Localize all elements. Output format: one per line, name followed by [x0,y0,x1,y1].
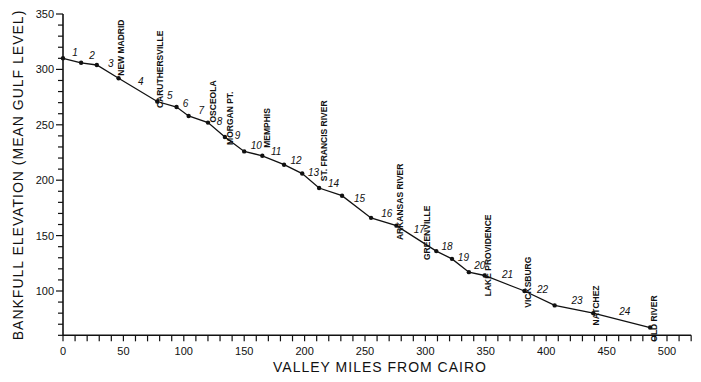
data-point [300,171,304,175]
data-point [434,249,438,253]
y-tick-label: 150 [36,230,54,242]
place-label: OSCEOLA [208,80,218,122]
segment-label: 13 [308,167,320,178]
data-point [186,114,190,118]
place-label: VICKSBURG [523,256,533,307]
segment-label: 21 [501,269,513,280]
place-label: LAKE PROVIDENCE [483,214,493,296]
x-tick-label: 300 [416,345,434,357]
x-tick-label: 250 [356,345,374,357]
data-point [242,149,246,153]
y-axis-title: BANKFULL ELEVATION (MEAN GULF LEVEL) [10,10,26,341]
segment-label: 14 [328,178,340,189]
segment-label: 12 [291,155,303,166]
data-point [260,154,264,158]
x-tick-label: 100 [175,345,193,357]
segment-label: 22 [536,284,549,295]
x-tick-label: 0 [60,345,66,357]
segment-label: 5 [167,90,173,101]
x-tick-label: 350 [477,345,495,357]
place-label: MEMPHIS [262,108,272,148]
segment-label: 16 [381,208,393,219]
segment-label: 7 [199,105,205,116]
data-point [61,56,65,60]
place-label: MORGAN PT. [225,92,235,145]
place-label: NATCHEZ [591,285,601,325]
segment-label: 3 [108,58,114,69]
segment-label: 10 [251,140,263,151]
y-tick-label: 350 [36,8,54,20]
data-point [369,216,373,220]
data-point [467,270,471,274]
segment-label: 6 [183,98,189,109]
segment-label: 24 [618,306,631,317]
data-point [174,105,178,109]
x-tick-label: 400 [537,345,555,357]
y-tick-label: 300 [36,63,54,75]
place-label: NEW MADRID [116,20,126,76]
segment-label: 18 [442,241,454,252]
segment-label: 15 [354,193,366,204]
chart: 1001502002503003500501001502002503003504… [0,0,701,382]
data-point [317,186,321,190]
x-tick-label: 150 [235,345,253,357]
place-label: GREENVILLE [422,205,432,260]
segment-label: 23 [570,295,583,306]
y-tick-label: 250 [36,119,54,131]
y-tick-label: 100 [36,285,54,297]
segment-label: 9 [235,130,241,141]
segment-label: 2 [88,50,95,61]
x-tick-label: 50 [117,345,129,357]
place-label: ARKANSAS RIVER [395,164,405,241]
y-tick-label: 200 [36,174,54,186]
segment-label: 19 [458,252,470,263]
data-point [340,194,344,198]
data-point [450,257,454,261]
segment-label: 4 [138,76,144,87]
segment-label: 11 [271,146,281,157]
data-series: 123456789101112131415161718192021222324 [61,47,652,330]
data-point [552,303,556,307]
x-tick-label: 200 [295,345,313,357]
x-tick-label: 450 [597,345,615,357]
annotations: NEW MADRIDCARUTHERSVILLEOSCEOLAMORGAN PT… [116,20,659,342]
x-tick-label: 500 [658,345,676,357]
segment-label: 1 [72,47,78,58]
place-label: OLD RIVER [649,295,659,341]
data-point [282,162,286,166]
data-point [79,61,83,65]
place-label: CARUTHERSVILLE [155,30,165,108]
data-point [95,63,99,67]
x-axis-title: VALLEY MILES FROM CAIRO [273,359,487,375]
place-label: ST. FRANCIS RIVER [319,100,329,181]
